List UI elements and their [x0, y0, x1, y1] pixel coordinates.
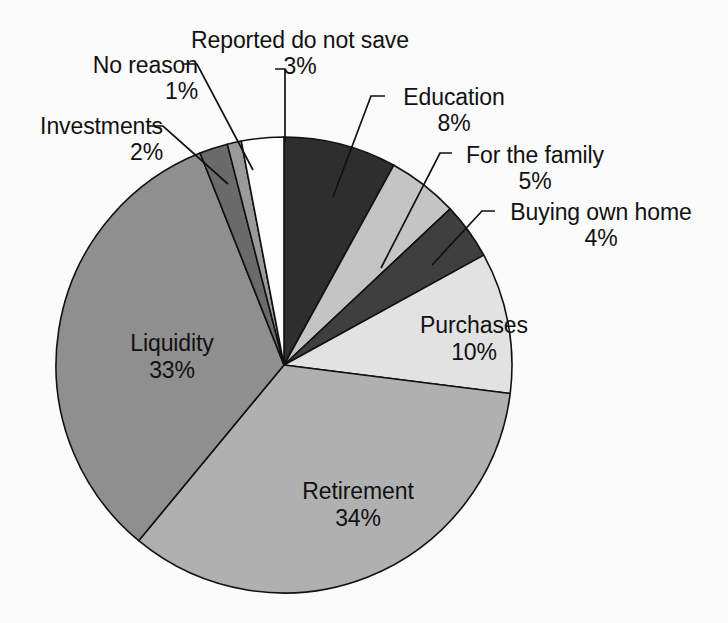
slice-label-percent: 5%	[452, 168, 618, 194]
slice-label-name: Retirement	[277, 478, 439, 505]
slice-label-liquidity: Liquidity 33%	[104, 330, 240, 383]
slice-label-for-the-family: For the family 5%	[452, 142, 618, 194]
slice-label-percent: 33%	[104, 357, 240, 384]
slice-label-purchases: Purchases 10%	[404, 312, 544, 365]
slice-label-name: Purchases	[404, 312, 544, 339]
slice-label-name: Reported do not save	[188, 27, 412, 53]
slice-label-reported-do-not-save: Reported do not save 3%	[188, 27, 412, 79]
leader-line-reported-do-not-save	[275, 69, 285, 142]
pie-chart-figure: No reason 1% Reported do not save 3% Inv…	[0, 0, 728, 623]
slice-label-percent: 10%	[404, 339, 544, 366]
slice-label-name: Liquidity	[104, 330, 240, 357]
slice-label-name: Investments	[8, 113, 163, 139]
slice-label-name: Buying own home	[496, 199, 706, 225]
slice-label-percent: 3%	[188, 53, 412, 79]
slice-label-name: For the family	[452, 142, 618, 168]
slice-label-buying-own-home: Buying own home 4%	[496, 199, 706, 251]
slice-label-education: Education 8%	[388, 84, 520, 136]
slice-label-no-reason: No reason 1%	[28, 52, 198, 104]
slice-label-percent: 34%	[277, 505, 439, 532]
slice-label-percent: 1%	[28, 78, 198, 104]
slice-label-investments: Investments 2%	[8, 113, 163, 165]
slice-label-percent: 4%	[496, 225, 706, 251]
slice-label-name: No reason	[28, 52, 198, 78]
slice-label-name: Education	[388, 84, 520, 110]
slice-label-percent: 2%	[8, 139, 163, 165]
slice-label-percent: 8%	[388, 110, 520, 136]
slice-label-retirement: Retirement 34%	[277, 478, 439, 531]
